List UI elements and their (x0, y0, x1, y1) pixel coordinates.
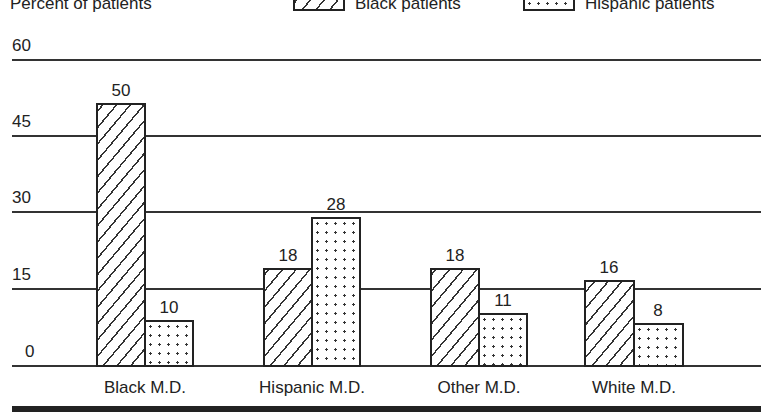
category-label: White M.D. (554, 378, 714, 398)
value-label: 50 (91, 81, 151, 101)
y-tick: 0 (25, 342, 34, 362)
gridline-60 (12, 59, 761, 61)
bar-white-md-hispanic-patients (633, 323, 684, 367)
value-label: 18 (258, 246, 318, 266)
y-tick: 15 (12, 265, 31, 285)
bar-black-md-black-patients (96, 103, 146, 367)
bar-black-md-hispanic-patients (144, 320, 194, 367)
legend-item-hispanic-patients: Hispanic patients (523, 0, 714, 14)
y-tick: 30 (12, 188, 31, 208)
value-label: 18 (425, 246, 485, 266)
y-tick: 45 (12, 112, 31, 132)
hatched-swatch-icon (293, 0, 345, 11)
bar-white-md-black-patients (584, 280, 635, 367)
category-label: Hispanic M.D. (232, 378, 392, 398)
bar-hispanic-md-hispanic-patients (311, 217, 361, 367)
bottom-rule (12, 406, 761, 412)
legend-label: Black patients (355, 0, 461, 14)
value-label: 10 (139, 298, 199, 318)
bar-other-md-black-patients (430, 268, 480, 367)
category-label: Other M.D. (399, 378, 559, 398)
dotted-swatch-icon (523, 0, 575, 11)
y-axis-label: Percent of patients (10, 0, 152, 14)
value-label: 28 (306, 195, 366, 215)
y-tick: 60 (12, 36, 31, 56)
value-label: 16 (579, 258, 639, 278)
bar-hispanic-md-black-patients (263, 268, 313, 367)
category-label: Black M.D. (65, 378, 225, 398)
bar-other-md-hispanic-patients (478, 313, 528, 367)
value-label: 8 (628, 301, 688, 321)
legend-label: Hispanic patients (585, 0, 714, 14)
legend-item-black-patients: Black patients (293, 0, 461, 14)
value-label: 11 (473, 291, 533, 311)
